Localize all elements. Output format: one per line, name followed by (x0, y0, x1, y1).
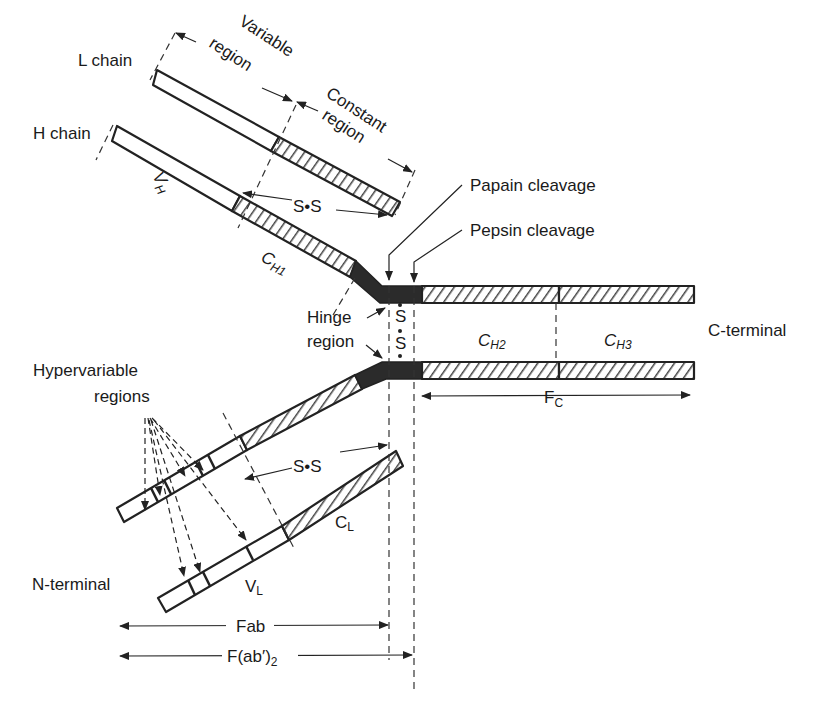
papain-arrow (389, 185, 462, 280)
lower-ch1-domain (240, 375, 362, 450)
hinge-label-1: Hinge (307, 308, 351, 327)
ch3-label: CH3 (604, 331, 632, 352)
ss-arrow (340, 445, 387, 452)
variable-arrow-right (262, 88, 292, 101)
hypervariable-label-2: regions (94, 387, 150, 406)
upper-ch2-domain (422, 286, 559, 303)
upper-ch3-domain (559, 286, 694, 303)
papain-label: Papain cleavage (470, 176, 596, 195)
vl-label: VL (245, 577, 263, 598)
lower-ch2-domain (422, 362, 559, 379)
variable-arrow-left (176, 33, 196, 42)
fc-label: FC (544, 388, 563, 410)
lower-heavy-chain (117, 362, 694, 522)
upper-light-chain (153, 70, 400, 216)
upper-heavy-chain (112, 126, 694, 303)
antibody-diagram: L chain H chain Variable region Constant… (0, 0, 836, 703)
ss-arrow (243, 193, 292, 200)
fab2-label: F(ab′)2 (227, 647, 278, 669)
c-terminal-label: C-terminal (708, 321, 786, 340)
ch1-label: CH1 (257, 247, 291, 279)
hinge-arrow (367, 308, 385, 318)
disulfide-dot (398, 354, 402, 358)
ch2-label: CH2 (478, 331, 506, 352)
upper-cl-domain (271, 137, 400, 216)
lower-ch3-domain (559, 362, 694, 379)
hinge-s2: S (395, 334, 406, 353)
cl-label: CL (335, 513, 354, 534)
constant-arrow-right (388, 159, 412, 172)
hinge-s1: S (395, 307, 406, 326)
fab-label: Fab (236, 617, 265, 636)
hinge-label-2: region (307, 332, 354, 351)
ss-bottom-label: S•S (293, 457, 322, 476)
hypervariable-label-1: Hypervariable (33, 361, 138, 380)
n-terminal-label: N-terminal (32, 575, 110, 594)
constant-arrow-left (297, 102, 318, 111)
upper-vl-domain (153, 70, 279, 151)
hv-pointer (152, 418, 203, 470)
upper-vh-domain (112, 126, 240, 211)
ss-arrow (336, 210, 387, 215)
pepsin-arrow (414, 230, 462, 282)
hinge-arrow (366, 345, 382, 358)
pepsin-label: Pepsin cleavage (470, 221, 595, 240)
ss-top-label: S•S (293, 197, 322, 216)
lower-vl-domain (158, 526, 289, 612)
l-chain-label: L chain (78, 51, 132, 70)
disulfide-dot (398, 329, 402, 333)
variable-label-2: region (206, 33, 256, 75)
h-chain-label: H chain (33, 124, 91, 143)
ss-arrow (245, 468, 292, 479)
guide-line (96, 125, 113, 160)
upper-hinge (350, 261, 422, 303)
disulfide-dot (398, 303, 402, 307)
guide-line (395, 170, 415, 215)
